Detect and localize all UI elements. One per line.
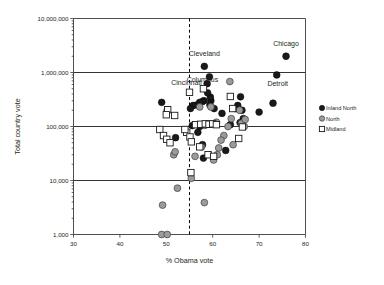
data-point-north	[218, 137, 225, 144]
data-point-north	[228, 115, 235, 122]
x-axis-title: % Obama vote	[166, 256, 214, 265]
data-point-midland	[235, 135, 241, 141]
data-point-north	[207, 104, 214, 111]
data-point-north	[225, 123, 232, 130]
data-point-inland-north	[219, 110, 226, 117]
xtick-label-30: 30	[70, 240, 77, 247]
tick-labels-group: 1,00010,000100,0001,000,00010,000,000304…	[38, 15, 310, 247]
data-point-inland-north	[187, 105, 194, 112]
data-point-inland-north	[158, 99, 165, 106]
data-point-inland-north	[270, 100, 277, 107]
data-point-midland	[186, 89, 192, 95]
ytick-label-1000000: 1,000,000	[41, 69, 69, 76]
data-point-midland	[213, 121, 219, 127]
data-point-inland-north	[256, 109, 263, 116]
legend-marker-inland-north	[319, 105, 324, 110]
data-point-north	[174, 185, 181, 192]
data-point-midland	[227, 93, 233, 99]
xtick-label-80: 80	[302, 240, 309, 247]
data-point-north	[159, 202, 166, 209]
xtick-label-70: 70	[256, 240, 263, 247]
data-point-midland	[200, 86, 206, 92]
xtick-label-40: 40	[116, 240, 123, 247]
data-point-inland-north	[237, 93, 244, 100]
xtick-label-50: 50	[163, 240, 170, 247]
annotation-detroit: Detroit	[267, 80, 288, 87]
data-point-inland-north	[222, 147, 229, 154]
data-point-midland	[163, 112, 169, 118]
ytick-label-100000: 100,000	[46, 123, 69, 130]
data-point-midland	[229, 105, 235, 111]
data-point-inland-north	[201, 63, 208, 70]
data-point-north	[172, 148, 179, 155]
annotation-cincinnati: Cincinnati	[171, 79, 202, 86]
data-point-midland	[210, 153, 216, 159]
data-point-midland	[182, 126, 188, 132]
legend-marker-north	[319, 116, 324, 121]
legend-label-north: North	[326, 116, 340, 122]
ytick-label-1000: 1,000	[53, 231, 69, 238]
data-point-midland	[188, 139, 194, 145]
annotation-chicago: Chicago	[273, 40, 299, 48]
data-point-north	[201, 199, 208, 206]
data-point-midland	[171, 112, 177, 118]
ytick-label-10000000: 10,000,000	[38, 15, 70, 22]
ytick-label-10000: 10,000	[50, 177, 69, 184]
data-point-north	[192, 153, 199, 160]
data-point-north	[230, 141, 237, 148]
data-point-inland-north	[273, 72, 280, 79]
data-point-midland	[157, 126, 163, 132]
annotation-cleveland: Cleveland	[189, 50, 220, 57]
data-point-north	[164, 231, 171, 238]
data-point-midland	[197, 144, 203, 150]
data-point-midland	[239, 124, 245, 130]
data-point-midland	[167, 140, 173, 146]
data-point-north	[196, 104, 203, 111]
data-point-north	[226, 78, 233, 85]
chart-canvas: ChicagoClevelandColumbusCincinnatiDetroi…	[0, 0, 384, 285]
y-axis-title: Total country vote	[13, 98, 22, 154]
data-point-inland-north	[283, 53, 290, 60]
data-point-north	[242, 116, 249, 123]
legend-label-midland: Midland	[326, 126, 346, 132]
point-annotations-group: ChicagoClevelandColumbusCincinnatiDetroi…	[171, 40, 299, 87]
legend-marker-midland	[319, 126, 324, 131]
data-point-north	[215, 145, 222, 152]
axis-titles-group: % Obama voteTotal country vote	[13, 98, 213, 264]
chart-legend: Inland NorthNorthMidland	[319, 105, 356, 132]
xtick-label-60: 60	[209, 240, 216, 247]
legend-label-inland-north: Inland North	[326, 105, 356, 111]
data-point-midland	[188, 169, 194, 175]
scatter-chart-figure: ChicagoClevelandColumbusCincinnatiDetroi…	[0, 0, 384, 285]
data-point-north	[236, 107, 243, 114]
